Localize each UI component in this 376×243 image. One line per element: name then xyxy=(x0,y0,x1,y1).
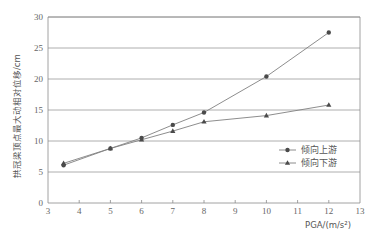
series-downstream xyxy=(61,102,331,165)
triangle-marker-icon xyxy=(285,160,290,165)
y-tick-label: 20 xyxy=(34,74,44,84)
series-upstream xyxy=(61,30,331,167)
y-tick-label: 0 xyxy=(39,198,44,208)
circle-marker-icon xyxy=(327,30,331,34)
circle-marker-icon xyxy=(264,74,268,78)
circle-marker-icon xyxy=(171,123,175,127)
legend-item: 倾向上游 xyxy=(279,144,337,155)
series-line xyxy=(64,33,329,166)
legend-label: 倾向下游 xyxy=(301,157,337,168)
x-tick-label: 12 xyxy=(324,206,333,216)
x-tick-label: 10 xyxy=(262,206,272,216)
x-tick-label: 11 xyxy=(293,206,302,216)
legend-item: 倾向下游 xyxy=(279,157,337,168)
x-tick-label: 5 xyxy=(108,206,113,216)
series-line xyxy=(64,105,329,163)
y-tick-label: 30 xyxy=(34,12,44,22)
circle-marker-icon xyxy=(285,148,289,152)
y-axis-title: 拱冠梁顶点最大动相对位移/cm xyxy=(12,54,22,178)
x-tick-label: 7 xyxy=(171,206,176,216)
x-tick-label: 9 xyxy=(233,206,238,216)
y-tick-label: 5 xyxy=(39,167,44,177)
x-tick-label: 13 xyxy=(356,206,366,216)
x-tick-label: 8 xyxy=(202,206,207,216)
x-tick-label: 4 xyxy=(77,206,82,216)
y-tick-label: 10 xyxy=(34,136,44,146)
line-chart: 051015202530345678910111213 倾向上游倾向下游 PGA… xyxy=(0,0,376,243)
legend: 倾向上游倾向下游 xyxy=(279,144,337,168)
legend-label: 倾向上游 xyxy=(301,144,337,155)
y-tick-label: 15 xyxy=(34,105,44,115)
x-tick-label: 6 xyxy=(139,206,144,216)
series-group xyxy=(61,30,331,167)
x-tick-label: 3 xyxy=(46,206,51,216)
y-tick-label: 25 xyxy=(34,43,44,53)
circle-marker-icon xyxy=(202,110,206,114)
triangle-marker-icon xyxy=(326,102,331,107)
x-axis-title: PGA/(m/s²) xyxy=(305,220,351,230)
